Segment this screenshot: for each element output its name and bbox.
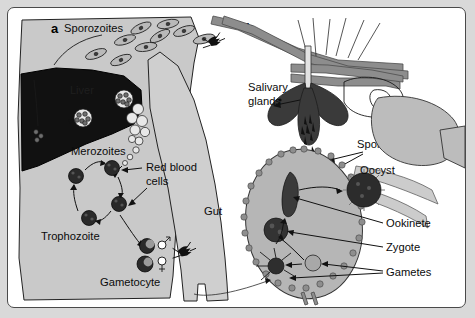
red-blood-cells-label-line1: Red blood [146, 161, 197, 173]
panel-a-label: a [51, 21, 59, 36]
mosquito-gut-shape [236, 142, 372, 307]
rbc-bottom [82, 211, 97, 226]
figure-container: a Liver Sporozoites [0, 0, 475, 318]
merozoites-label: Merozoites [71, 145, 126, 157]
oocyst-label: Oocyst [360, 164, 396, 176]
life-cycle-diagram: a Liver Sporozoites [8, 8, 465, 307]
salivary-glands-label-line1: Salivary [248, 81, 288, 93]
rbc-right [112, 197, 127, 212]
gamete-female-shape [305, 255, 321, 271]
gut-label: Gut [204, 205, 223, 217]
red-blood-cells-label-line2: cells [146, 175, 169, 187]
liver-schizont-burst [115, 90, 133, 108]
mosquito-abdomen-tail [440, 126, 465, 168]
gametocyte-male [140, 239, 155, 254]
gametocyte-female [137, 256, 153, 272]
panel-b-group: b [194, 16, 465, 306]
zygote-label: Zygote [386, 241, 420, 253]
sporozoites-label-human: Sporozoites [64, 22, 123, 34]
liver-schizont-mid [74, 109, 92, 127]
trophozoite-label: Trophozoite [41, 230, 100, 242]
rbc-top [105, 161, 120, 176]
liver-label: Liver [70, 84, 94, 96]
figure-frame: a Liver Sporozoites [7, 7, 466, 308]
panel-a-group: a Liver Sporozoites [18, 17, 228, 301]
gametocyte-label: Gametocyte [100, 276, 160, 288]
ookinete-label: Ookinete [386, 217, 431, 229]
rbc-left [69, 169, 84, 184]
gametes-label: Gametes [386, 266, 432, 278]
sporozoites-pointer-b [330, 152, 363, 160]
